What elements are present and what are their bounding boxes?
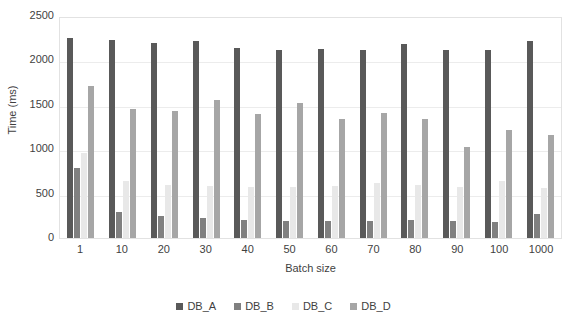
y-tick-label: 2000 — [18, 54, 54, 65]
bar-db_a-1000 — [527, 41, 533, 238]
bar-group — [185, 18, 227, 238]
bar-db_c-50 — [290, 187, 296, 239]
bar-db_d-1000 — [548, 135, 554, 238]
x-axis-title: Batch size — [59, 262, 562, 274]
y-tick-label: 500 — [18, 188, 54, 199]
legend-swatch-icon — [234, 303, 241, 310]
x-tick-label: 90 — [436, 243, 478, 255]
legend-item-db_d[interactable]: DB_D — [350, 300, 390, 312]
plot-area — [59, 17, 562, 239]
x-tick-label: 70 — [352, 243, 394, 255]
legend-item-db_b[interactable]: DB_B — [234, 300, 274, 312]
bar-db_d-10 — [130, 109, 136, 238]
x-tick-label: 40 — [227, 243, 269, 255]
x-tick-label: 30 — [185, 243, 227, 255]
bar-db_c-1 — [81, 153, 87, 238]
x-tick-label: 20 — [143, 243, 185, 255]
y-tick-label: 2500 — [18, 10, 54, 21]
bar-group — [102, 18, 144, 238]
bar-group — [60, 18, 102, 238]
legend-swatch-icon — [292, 303, 299, 310]
bar-db_b-1 — [74, 168, 80, 238]
bar-db_a-40 — [234, 48, 240, 238]
bar-db_a-1 — [67, 38, 73, 238]
bar-db_b-60 — [325, 221, 331, 238]
bar-db_a-10 — [109, 40, 115, 238]
bar-db_c-30 — [207, 186, 213, 238]
bar-group — [436, 18, 478, 238]
x-axis-tick-labels: 11020304050607080901001000 — [59, 243, 562, 255]
x-tick-label: 50 — [269, 243, 311, 255]
bar-db_c-90 — [457, 187, 463, 239]
x-tick-label: 80 — [394, 243, 436, 255]
bar-db_b-90 — [450, 221, 456, 238]
bar-db_d-50 — [297, 103, 303, 238]
legend: DB_ADB_BDB_CDB_D — [0, 300, 567, 312]
bar-db_c-10 — [123, 181, 129, 238]
bar-group — [144, 18, 186, 238]
y-axis-tick-labels: 05001000150020002500 — [18, 10, 54, 246]
bar-db_d-100 — [506, 130, 512, 238]
bar-db_b-100 — [492, 222, 498, 238]
bar-db_b-30 — [200, 218, 206, 238]
bar-db_c-1000 — [541, 188, 547, 238]
bar-group — [394, 18, 436, 238]
bar-db_a-60 — [318, 49, 324, 238]
legend-swatch-icon — [350, 303, 357, 310]
bar-db_d-30 — [214, 100, 220, 238]
bar-db_c-40 — [248, 187, 254, 239]
y-tick-label: 0 — [18, 232, 54, 243]
bar-db_a-90 — [443, 50, 449, 238]
bar-db_c-60 — [332, 186, 338, 238]
legend-label: DB_A — [187, 300, 216, 312]
bar-db_c-20 — [165, 185, 171, 238]
bar-db_d-90 — [464, 147, 470, 238]
bar-db_b-1000 — [534, 214, 540, 238]
bar-db_c-70 — [374, 183, 380, 238]
x-tick-label: 1000 — [520, 243, 562, 255]
bar-db_a-30 — [193, 41, 199, 238]
bar-db_b-10 — [116, 212, 122, 238]
bar-db_d-70 — [381, 113, 387, 238]
bar-group — [269, 18, 311, 238]
bar-groups — [60, 18, 561, 238]
bar-db_b-20 — [158, 216, 164, 238]
x-tick-label: 60 — [311, 243, 353, 255]
bar-db_a-80 — [401, 44, 407, 238]
bar-db_a-70 — [360, 50, 366, 238]
x-tick-label: 10 — [101, 243, 143, 255]
bar-db_d-60 — [339, 119, 345, 238]
bar-db_c-100 — [499, 181, 505, 238]
y-axis-title: Time (ms) — [6, 65, 18, 155]
bar-group — [227, 18, 269, 238]
legend-label: DB_D — [361, 300, 390, 312]
legend-item-db_c[interactable]: DB_C — [292, 300, 332, 312]
bar-db_b-70 — [367, 221, 373, 238]
legend-swatch-icon — [176, 303, 183, 310]
bar-db_a-20 — [151, 43, 157, 238]
x-tick-label: 100 — [478, 243, 520, 255]
bar-db_c-80 — [415, 185, 421, 238]
bar-db_d-1 — [88, 86, 94, 238]
bar-db_a-50 — [276, 50, 282, 238]
bar-db_d-80 — [422, 119, 428, 238]
bar-db_d-40 — [255, 114, 261, 238]
x-tick-label: 1 — [59, 243, 101, 255]
y-tick-label: 1000 — [18, 143, 54, 154]
bar-group — [311, 18, 353, 238]
legend-label: DB_B — [245, 300, 274, 312]
bar-db_b-80 — [408, 220, 414, 238]
legend-item-db_a[interactable]: DB_A — [176, 300, 216, 312]
bar-group — [352, 18, 394, 238]
y-tick-label: 1500 — [18, 99, 54, 110]
bar-group — [519, 18, 561, 238]
bar-db_b-50 — [283, 221, 289, 238]
bar-db_a-100 — [485, 50, 491, 238]
bar-db_d-20 — [172, 111, 178, 238]
legend-label: DB_C — [303, 300, 332, 312]
bar-group — [478, 18, 520, 238]
bar-db_b-40 — [241, 220, 247, 238]
bar-chart: Time (ms) 05001000150020002500 110203040… — [0, 0, 567, 331]
